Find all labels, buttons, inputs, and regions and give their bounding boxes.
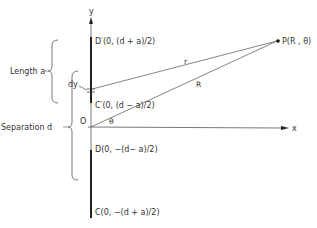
dy-leader bbox=[79, 86, 87, 90]
label-D-prime: D′(0, (d + a)/2) bbox=[95, 37, 155, 46]
label-P: P(R , θ) bbox=[282, 37, 311, 46]
label-length: Length a bbox=[10, 67, 45, 76]
dipole-antenna-diagram: y x D′(0, (d + a)/2) C′(0, (d − a)/2) D(… bbox=[0, 0, 317, 228]
R-line bbox=[91, 41, 277, 127]
label-C: C(0, −(d + a)/2) bbox=[95, 208, 160, 217]
y-axis-label: y bbox=[89, 7, 94, 16]
label-dy: dy bbox=[68, 80, 78, 89]
x-axis bbox=[88, 127, 283, 128]
label-D: D(0, −(d− a)/2) bbox=[95, 145, 158, 154]
y-axis-arrow-icon bbox=[89, 17, 93, 24]
point-P bbox=[276, 39, 280, 43]
x-axis-label: x bbox=[292, 124, 297, 133]
label-separation: Separation d bbox=[1, 123, 52, 132]
label-C-prime: C′(0, (d − a)/2) bbox=[95, 101, 155, 110]
label-R: R bbox=[196, 80, 201, 89]
length-brace bbox=[48, 40, 58, 103]
x-axis-arrow-icon bbox=[281, 126, 289, 130]
label-origin: O bbox=[80, 117, 86, 126]
label-theta: θ bbox=[109, 117, 114, 126]
